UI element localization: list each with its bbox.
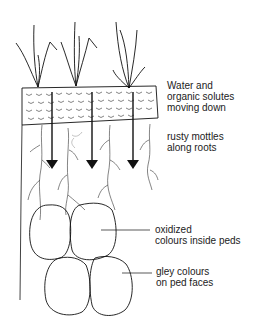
soil-profile-diagram bbox=[0, 0, 268, 333]
label-water-solutes: Water and organic solutes moving down bbox=[167, 80, 234, 113]
topsoil-texture bbox=[26, 92, 154, 120]
label-line: oxidized bbox=[155, 224, 241, 235]
grass-icon bbox=[16, 22, 145, 88]
leader-lines bbox=[101, 230, 152, 273]
arrow-down-icon bbox=[52, 92, 133, 160]
label-line: organic solutes bbox=[167, 91, 234, 102]
profile-edge bbox=[20, 125, 22, 300]
label-line: along roots bbox=[167, 142, 224, 153]
label-line: on ped faces bbox=[156, 277, 213, 288]
label-line: gley colours bbox=[156, 266, 213, 277]
label-oxidized-colours: oxidized colours inside peds bbox=[155, 224, 241, 246]
roots bbox=[28, 124, 158, 220]
label-gley-colours: gley colours on ped faces bbox=[156, 266, 213, 288]
label-line: moving down bbox=[167, 102, 234, 113]
label-line: colours inside peds bbox=[155, 235, 241, 246]
label-line: Water and bbox=[167, 80, 234, 91]
label-line: rusty mottles bbox=[167, 131, 224, 142]
label-rusty-mottles: rusty mottles along roots bbox=[167, 131, 224, 153]
peds bbox=[30, 203, 133, 315]
